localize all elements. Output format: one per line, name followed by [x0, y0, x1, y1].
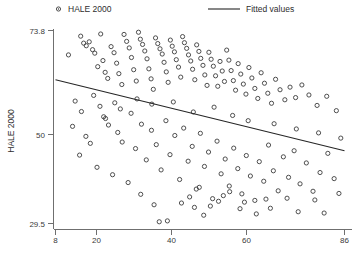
legend-label-fitted-values: Fitted values: [246, 4, 294, 14]
data-point: [92, 93, 96, 97]
data-point: [159, 168, 163, 172]
data-point: [79, 34, 83, 38]
data-point: [98, 104, 102, 108]
data-point: [236, 62, 240, 66]
data-point: [149, 128, 153, 132]
data-point: [201, 63, 205, 67]
data-point: [93, 51, 97, 55]
data-point: [182, 126, 186, 130]
data-point: [112, 51, 116, 55]
data-point: [132, 68, 136, 72]
data-point: [160, 52, 164, 56]
legend-marker-dot: [58, 8, 59, 9]
data-point: [180, 35, 184, 39]
data-point: [171, 100, 175, 104]
data-point: [174, 58, 178, 62]
data-point: [228, 190, 232, 194]
data-point: [253, 198, 257, 202]
data-point: [129, 55, 133, 59]
data-point: [182, 41, 186, 45]
data-point: [232, 146, 236, 150]
data-point: [266, 91, 270, 95]
data-point: [84, 134, 88, 138]
data-point: [316, 131, 320, 135]
y-axis-title: HALE 2000: [6, 109, 16, 153]
data-point: [79, 109, 83, 113]
data-point: [242, 200, 246, 204]
data-point: [216, 84, 220, 88]
data-point: [286, 175, 290, 179]
data-point: [168, 38, 172, 42]
data-point: [253, 86, 257, 90]
data-point: [281, 155, 285, 159]
data-point: [125, 39, 129, 43]
data-point: [186, 159, 190, 163]
data-point: [185, 46, 189, 50]
y-axis-ticks: [48, 31, 54, 224]
data-point: [325, 94, 329, 98]
data-point: [215, 139, 219, 143]
data-point: [304, 161, 308, 165]
x-tick-label-20: 20: [92, 236, 101, 245]
data-point: [106, 123, 110, 127]
data-point: [211, 197, 215, 201]
data-point: [285, 196, 289, 200]
data-point: [241, 82, 245, 86]
data-point: [186, 53, 190, 57]
data-point: [192, 205, 196, 209]
data-point: [99, 32, 103, 36]
data-point: [195, 43, 199, 47]
data-point: [296, 210, 300, 214]
data-point: [143, 49, 147, 53]
x-tick-label-8: 8: [53, 236, 58, 245]
data-point: [109, 45, 113, 49]
data-point: [106, 76, 110, 80]
data-point: [213, 74, 217, 78]
data-point: [307, 93, 311, 97]
data-point: [147, 67, 151, 71]
data-point: [205, 83, 209, 87]
data-point: [233, 88, 237, 92]
data-point: [168, 153, 172, 157]
data-point: [322, 211, 326, 215]
data-point: [247, 65, 251, 69]
data-point: [149, 77, 153, 81]
data-point: [166, 80, 170, 84]
data-point: [271, 169, 275, 173]
data-point: [179, 201, 183, 205]
data-point: [250, 76, 254, 80]
data-point: [120, 140, 124, 144]
data-point: [73, 99, 77, 103]
x-tick-label-40: 40: [167, 236, 176, 245]
data-point: [116, 130, 120, 134]
data-point: [117, 72, 121, 76]
data-point: [256, 96, 260, 100]
data-point: [337, 191, 341, 195]
x-tick-label-60: 60: [242, 236, 251, 245]
data-point: [264, 197, 268, 201]
data-point: [229, 68, 233, 72]
data-point: [227, 184, 231, 188]
chart-container: HALE 2000 Fitted values 73.8 50 29.5 8: [0, 0, 358, 262]
data-point: [87, 40, 91, 44]
data-point: [248, 174, 252, 178]
data-point: [294, 127, 298, 131]
data-point: [157, 220, 161, 224]
data-point: [273, 77, 277, 81]
y-tick-label-73-8: 73.8: [29, 27, 45, 36]
data-point: [95, 165, 99, 169]
data-point: [127, 46, 131, 50]
data-point: [257, 160, 261, 164]
fitted-values-line: [56, 80, 345, 151]
data-point: [288, 85, 292, 89]
data-point: [225, 48, 229, 52]
fitted-line-layer: [56, 80, 345, 151]
data-point: [70, 124, 74, 128]
y-tick-label-50: 50: [36, 131, 45, 140]
data-point: [84, 44, 88, 48]
data-point: [218, 59, 222, 63]
data-point: [326, 151, 330, 155]
data-point: [173, 133, 177, 137]
data-point: [158, 47, 162, 51]
data-point: [216, 199, 220, 203]
